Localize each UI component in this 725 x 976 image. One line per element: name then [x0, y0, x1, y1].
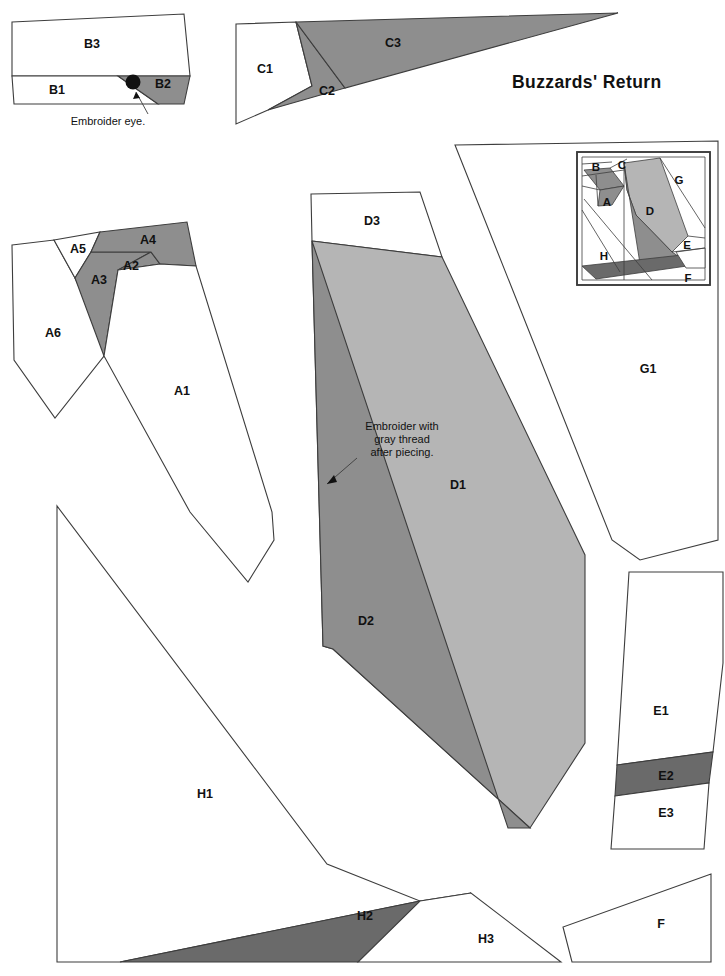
- inset-label-d: D: [646, 205, 654, 217]
- inset-label-b: B: [592, 161, 600, 173]
- pattern-canvas: B3B1B2C1C2C3A6A5A3A2A4A1D3D1D2G1E1E2E3FH…: [0, 0, 725, 976]
- eye-dot-icon: [126, 75, 141, 90]
- piece-b3: [12, 14, 190, 76]
- piece-label-d2: D2: [358, 614, 374, 628]
- piece-a1: [104, 264, 274, 582]
- piece-label-h1: H1: [197, 787, 213, 801]
- piece-label-a1: A1: [174, 384, 190, 398]
- piece-label-e3: E3: [658, 806, 673, 820]
- piece-label-a5: A5: [70, 242, 86, 256]
- piece-label-b2: B2: [155, 77, 171, 91]
- inset-label-h: H: [600, 250, 608, 262]
- inset-label-a: A: [603, 196, 611, 208]
- piece-label-h3: H3: [478, 932, 494, 946]
- piece-label-a4: A4: [140, 233, 156, 247]
- piece-label-a6: A6: [45, 326, 61, 340]
- piece-label-c2: C2: [319, 84, 335, 98]
- pattern-page: Buzzards' Return B3B1B2C1C2C3A6A5A3A2A4A…: [0, 0, 725, 976]
- piece-label-h2: H2: [357, 909, 373, 923]
- section-a: A6A5A3A2A4A1: [12, 222, 274, 582]
- inset-label-c: C: [618, 159, 626, 171]
- piece-label-c3: C3: [385, 36, 401, 50]
- piece-label-d1: D1: [450, 478, 466, 492]
- piece-f: [563, 874, 711, 962]
- inset-label-f: F: [684, 272, 691, 284]
- piece-label-a3: A3: [91, 273, 107, 287]
- section-f: F: [563, 874, 711, 962]
- section-c: C1C2C3: [236, 13, 618, 124]
- section-e: E1E2E3: [611, 572, 723, 849]
- piece-label-f: F: [657, 917, 665, 931]
- piece-label-c1: C1: [257, 62, 273, 76]
- piece-label-e1: E1: [653, 704, 668, 718]
- piece-e1: [617, 572, 723, 765]
- inset-label-e: E: [683, 239, 691, 251]
- piece-label-d3: D3: [364, 214, 380, 228]
- annotation-text: Embroider eye.: [71, 115, 146, 127]
- piece-label-e2: E2: [658, 769, 673, 783]
- inset-label-g: G: [675, 174, 684, 186]
- piece-label-g1: G1: [640, 362, 657, 376]
- assembled-block-inset: BCGADEHF: [577, 152, 710, 285]
- annotation-text: Embroider withgray threadafter piecing.: [365, 420, 438, 458]
- piece-label-b1: B1: [49, 83, 65, 97]
- piece-label-b3: B3: [84, 37, 100, 51]
- piece-label-a2: A2: [123, 259, 139, 273]
- section-b: B3B1B2: [12, 14, 190, 104]
- piece-c3: [296, 13, 618, 88]
